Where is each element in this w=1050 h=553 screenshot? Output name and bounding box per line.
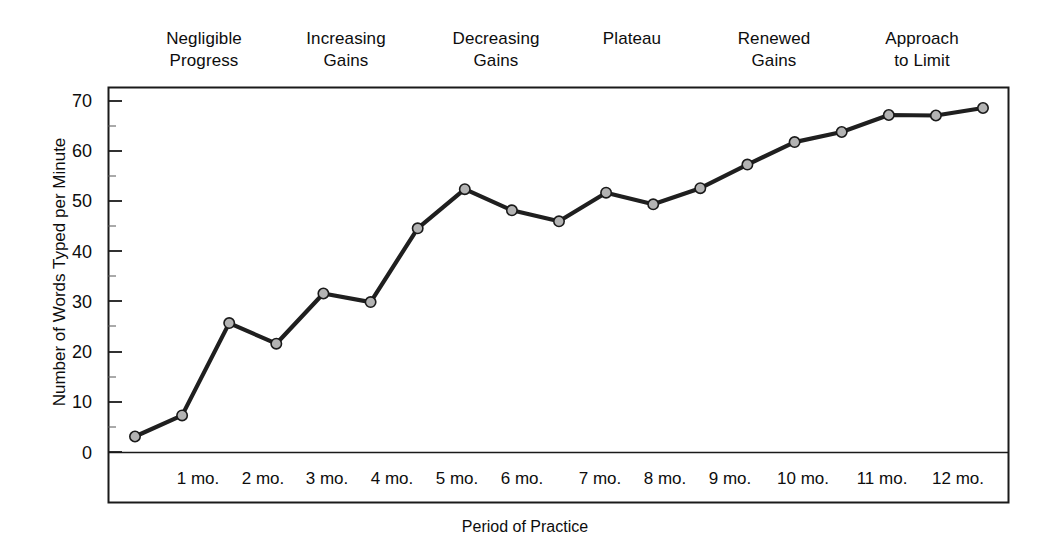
data-point-marker [742,159,752,169]
data-point-marker [837,127,847,137]
chart-figure: Negligible Progress Increasing Gains Dec… [0,0,1050,553]
data-point-marker [460,184,470,194]
data-point-marker [507,205,517,215]
data-point-marker [789,137,799,147]
axis-frame [109,88,1009,503]
data-point-marker [413,223,423,233]
series-markers [130,103,988,442]
data-point-marker [931,110,941,120]
data-point-marker [978,103,988,113]
data-point-marker [695,183,705,193]
data-point-marker [130,431,140,441]
data-point-marker [271,339,281,349]
data-point-marker [224,318,234,328]
data-point-marker [554,216,564,226]
plot-area [0,0,1050,553]
data-point-marker [884,110,894,120]
data-point-marker [318,288,328,298]
data-point-marker [648,199,658,209]
data-point-marker [365,297,375,307]
data-point-marker [601,188,611,198]
data-point-marker [177,410,187,420]
data-series-words-per-minute [130,103,988,442]
series-line [135,108,983,437]
